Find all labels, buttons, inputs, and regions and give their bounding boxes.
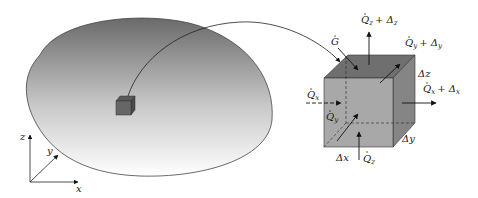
axis-y-label: y [46, 145, 53, 156]
qx-out-label: Qx+ Δx [423, 83, 460, 96]
small-element-icon [116, 96, 135, 115]
qz-in-label: Qz [363, 153, 375, 166]
qy-out-label: Qy+ Δy [405, 37, 443, 50]
axis-x-label: x [76, 183, 82, 194]
dz-label: Δz [417, 68, 431, 79]
dy-label: Δy [401, 133, 415, 144]
axis-z-label: z [19, 131, 26, 142]
diagram-canvas: z y x G Qz+ Δz Qy+ Δy Δz Qx+ Δx Qx Qy Δx… [0, 0, 478, 198]
qz-out-label: Qz+ Δz [361, 14, 398, 27]
body-shape [26, 18, 272, 176]
g-label: G [331, 36, 339, 47]
dx-label: Δx [335, 152, 349, 163]
qx-in-label: Qx [307, 89, 319, 102]
